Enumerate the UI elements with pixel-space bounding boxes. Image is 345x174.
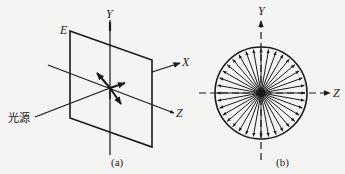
caption-b: (b)	[276, 156, 289, 169]
center-dot	[257, 89, 265, 97]
plane-e-label: E	[59, 23, 68, 37]
x-axis-a	[152, 63, 180, 72]
figure-b: Y Z (b)	[199, 4, 340, 169]
center-vibration-arrows	[97, 73, 125, 104]
y-axis-label-b: Y	[258, 4, 266, 18]
light-source-label: 光源	[8, 111, 30, 125]
x-axis-label-a: X	[181, 55, 190, 69]
z-axis-label-a: Z	[176, 106, 183, 120]
caption-a: (a)	[111, 156, 124, 169]
z-axis-label-b: Z	[333, 86, 340, 100]
diagram-canvas: E Y X Z 光源 (a) Y Z (b)	[0, 0, 345, 174]
y-axis-label-a: Y	[106, 7, 114, 21]
diagram-svg: E Y X Z 光源 (a) Y Z (b)	[0, 0, 345, 174]
light-source-line	[35, 88, 110, 117]
figure-a: E Y X Z 光源 (a)	[8, 7, 190, 169]
